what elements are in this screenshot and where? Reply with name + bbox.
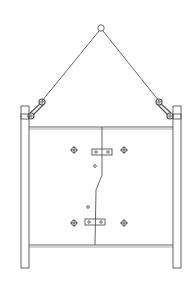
bolt [120, 146, 128, 154]
right-post [173, 106, 181, 268]
lifting-ring [98, 25, 104, 31]
bolt [120, 219, 128, 227]
panel-split-line [95, 127, 102, 245]
bolt [70, 146, 78, 154]
left-post [21, 106, 29, 268]
lifting-frame-diagram: Lifting frame with sling and panel [0, 0, 192, 284]
right-sling [103, 31, 159, 101]
left-sling [42, 31, 99, 101]
right-shackle [156, 99, 173, 119]
bolt [70, 219, 78, 227]
left-shackle [28, 99, 45, 119]
